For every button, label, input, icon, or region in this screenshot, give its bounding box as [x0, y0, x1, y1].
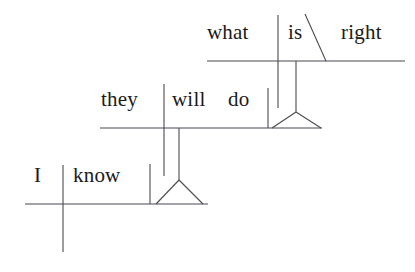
- tier-middle-tripod-leg-left: [156, 180, 179, 204]
- word-do: do: [228, 89, 249, 110]
- word-what: what: [207, 22, 249, 43]
- word-is: is: [288, 22, 302, 43]
- word-i: I: [34, 165, 41, 186]
- word-they: they: [101, 89, 138, 110]
- word-know: know: [73, 165, 120, 186]
- tier-top-predicate-adjective-slant: [305, 14, 326, 61]
- word-will: will: [172, 89, 205, 110]
- tier-top-tripod-leg-left: [272, 112, 296, 128]
- sentence-diagram-canvas: what is right they will do I know: [0, 0, 415, 272]
- word-right: right: [341, 22, 382, 43]
- tier-middle-tripod-leg-right: [179, 180, 203, 204]
- tier-top-tripod-leg-right: [296, 112, 321, 128]
